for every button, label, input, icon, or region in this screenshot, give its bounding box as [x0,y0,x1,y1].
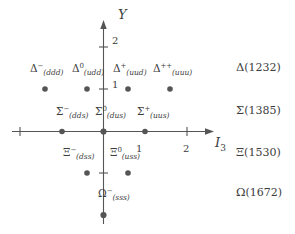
state-label: Δ−(ddd) [30,63,64,76]
mass-label: Ω(1672) [236,187,282,199]
state-label: Δ++(uuu) [153,63,192,76]
y-tick-label-2: 2 [112,36,118,46]
state-label: Δ0(udd) [72,63,104,76]
baryon-decuplet-diagram: Y I3 2 1 1 2 Δ−(ddd) Δ0(udd) Δ+(uud) Δ++… [0,0,295,234]
data-point [125,170,131,176]
y-axis-label: Y [118,8,127,21]
mass-label: Σ(1385) [236,105,281,117]
data-point [167,86,173,92]
y-tick-label-1: 1 [112,80,118,90]
x-axis-label: I3 [215,136,226,153]
data-point [100,128,106,134]
mass-label: Ξ(1530) [236,147,281,159]
data-point [142,129,148,135]
x-axis-label-subscript: 3 [220,143,226,153]
x-axis-arrowhead [205,128,214,134]
mass-label: Δ(1232) [236,62,281,74]
state-label: Σ−(dds) [56,106,88,119]
state-label: Σ0(dus) [95,106,126,119]
state-label: Ξ0(uss) [110,147,140,160]
state-label: Δ+(uud) [113,63,147,76]
data-point [42,86,48,92]
data-point [84,170,90,176]
state-label: Ω−(sss) [98,188,130,201]
state-label: Ξ−(dss) [63,147,94,160]
x-tick-label-2: 2 [183,144,189,154]
data-point [59,129,65,135]
data-point [125,86,131,92]
state-label: Σ+(uus) [137,106,169,119]
data-point [84,86,90,92]
data-point [100,212,106,218]
y-axis-arrowhead [100,20,106,29]
